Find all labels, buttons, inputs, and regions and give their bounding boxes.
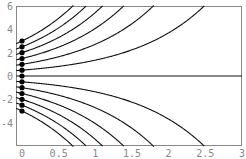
curve-4 — [16, 5, 154, 65]
curve-9 — [16, 92, 124, 146]
y-tick-label: 0 — [7, 71, 13, 82]
initial-point — [19, 79, 24, 84]
initial-point — [19, 108, 24, 113]
initial-point — [19, 103, 24, 108]
initial-point — [19, 73, 24, 78]
x-tick-label: 3 — [239, 148, 245, 159]
curve-7 — [16, 81, 204, 146]
x-tick-label: 0.5 — [50, 148, 68, 159]
curve-5 — [16, 6, 204, 71]
curve-12 — [16, 108, 73, 146]
curve-0 — [16, 5, 73, 43]
y-tick-label: -2 — [1, 94, 13, 105]
curve-3 — [16, 6, 124, 60]
curve-8 — [16, 87, 154, 147]
initial-point — [19, 85, 24, 90]
initial-point — [19, 97, 24, 102]
x-tick-label: 1.5 — [123, 148, 141, 159]
y-tick-label: 2 — [7, 48, 13, 59]
initial-point — [19, 91, 24, 96]
y-tick-label: 4 — [7, 24, 13, 35]
x-axis-ticks: 00.511.522.53 — [19, 148, 245, 159]
chart: 00.511.522.53 6420-2-4 — [0, 0, 246, 159]
initial-point — [19, 50, 24, 55]
y-tick-label: -4 — [1, 118, 13, 129]
y-axis-ticks: 6420-2-4 — [1, 1, 13, 129]
solution-curves — [16, 5, 242, 146]
x-tick-label: 2.5 — [196, 148, 214, 159]
y-tick-label: 6 — [7, 1, 13, 12]
initial-points — [19, 38, 24, 113]
x-tick-label: 2 — [166, 148, 172, 159]
x-tick-label: 1 — [92, 148, 98, 159]
initial-point — [19, 44, 24, 49]
initial-point — [19, 68, 24, 73]
initial-point — [19, 38, 24, 43]
initial-point — [19, 62, 24, 67]
x-tick-label: 0 — [19, 148, 25, 159]
initial-point — [19, 56, 24, 61]
